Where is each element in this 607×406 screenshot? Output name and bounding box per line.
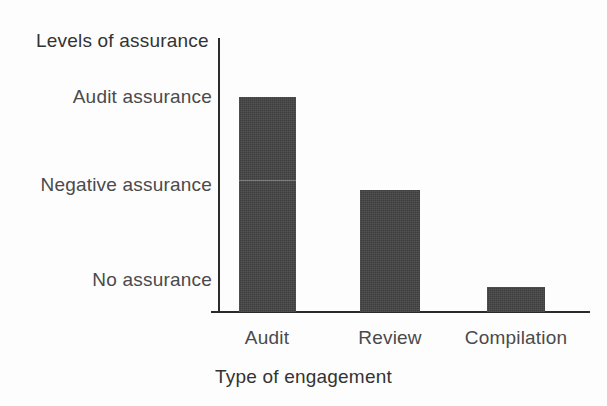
y-tick-label-negative-assurance: Negative assurance	[40, 174, 212, 196]
y-axis-title: Levels of assurance	[36, 30, 209, 52]
bar-audit	[239, 97, 296, 312]
x-tick-label-compilation: Compilation	[465, 327, 568, 349]
y-tick-label-audit-assurance: Audit assurance	[73, 86, 212, 108]
bar-review	[360, 190, 420, 312]
y-tick-label-no-assurance: No assurance	[92, 269, 212, 291]
scan-seam-artifact	[239, 180, 296, 181]
x-axis-title: Type of engagement	[215, 366, 392, 388]
x-tick-label-audit: Audit	[245, 327, 289, 349]
x-tick-label-review: Review	[358, 327, 422, 349]
bar-compilation	[487, 287, 545, 312]
bar-chart-figure: Levels of assurance Audit assurance Nega…	[0, 0, 607, 406]
y-axis-line	[218, 38, 220, 313]
